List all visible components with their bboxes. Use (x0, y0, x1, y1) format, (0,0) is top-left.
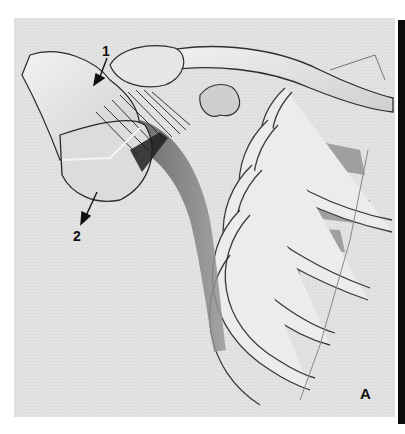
coracoid-process (200, 84, 240, 116)
acromion (110, 46, 184, 87)
callout-label-1: 1 (102, 44, 110, 58)
panel-letter: A (360, 386, 371, 401)
shoulder-anatomy-illustration (0, 0, 405, 434)
callout-label-2: 2 (73, 229, 81, 243)
clavicle (150, 47, 393, 112)
